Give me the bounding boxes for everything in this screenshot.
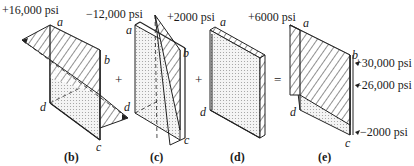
corner-e-a: a (303, 17, 309, 29)
equals-operator: = (274, 72, 281, 88)
corner-e-d: d (290, 106, 296, 118)
corner-c-c: c (184, 134, 189, 146)
caption-b: (b) (64, 150, 79, 165)
plus-operator-2: + (195, 72, 202, 88)
stress-label-e: +6000 psi (248, 11, 296, 23)
stress-label-b: +16,000 psi (2, 4, 59, 16)
corner-b-c: c (96, 141, 101, 153)
result-label-bottom: −2000 psi (360, 126, 408, 138)
corner-e-b: b (352, 49, 358, 61)
corner-b-b: b (104, 54, 110, 66)
caption-e: (e) (318, 150, 331, 165)
caption-c: (c) (150, 150, 163, 165)
stress-label-d: +2000 psi (167, 11, 215, 23)
corner-c-d: d (124, 101, 130, 113)
stress-label-c: −12,000 psi (86, 8, 143, 20)
corner-d-d: d (200, 106, 206, 118)
corner-d-a: a (220, 16, 226, 28)
corner-c-a: a (126, 24, 132, 36)
result-label-top: +30,000 psi (355, 57, 412, 69)
corner-c-b: b (183, 47, 189, 59)
panel-e-graphic (290, 25, 360, 135)
panel-b-graphic (22, 25, 128, 140)
panel-d-graphic (210, 27, 265, 138)
corner-b-d: d (40, 101, 46, 113)
corner-e-c: c (345, 137, 350, 149)
corner-b-a: a (57, 16, 63, 28)
panel-c-graphic (135, 15, 185, 145)
result-label-middle: −26,000 psi (355, 79, 412, 91)
plus-operator-1: + (115, 72, 122, 88)
caption-d: (d) (230, 150, 245, 165)
